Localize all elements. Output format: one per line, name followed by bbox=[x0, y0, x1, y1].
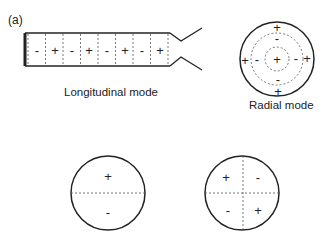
rod-sign: - bbox=[70, 43, 74, 58]
dipole-sign-bottom: - bbox=[106, 205, 110, 220]
rod-signs: - + - + - + - + bbox=[35, 43, 164, 58]
radial-sign-outer-left: + bbox=[241, 53, 249, 68]
radial-caption: Radial mode bbox=[249, 99, 314, 111]
horn-bottom bbox=[170, 57, 202, 70]
rod-sign: - bbox=[105, 43, 109, 58]
rod-sign: + bbox=[51, 43, 59, 58]
radial-sign-outer-right: + bbox=[303, 51, 311, 66]
radial-sign-middle-top: - bbox=[275, 31, 279, 46]
panel-label: (a) bbox=[8, 13, 23, 27]
radial-sign-middle-bottom: - bbox=[276, 72, 280, 87]
quadrupole-sign-bottom-right: + bbox=[254, 203, 262, 218]
longitudinal-rod: - + - + - + - + bbox=[25, 28, 202, 70]
radial-sign-middle-left: - bbox=[255, 52, 259, 67]
horn-top bbox=[170, 28, 202, 41]
rod-sign: + bbox=[121, 43, 129, 58]
vibration-modes-diagram: (a) - + - + - + - + Lo bbox=[0, 0, 323, 232]
rod-sign: - bbox=[140, 43, 144, 58]
radial-mode-disc: + + + + - - - - + bbox=[240, 20, 314, 99]
dipole-sign-top: + bbox=[104, 169, 112, 184]
dipole-mode-disc: + - bbox=[71, 156, 145, 230]
node-lines bbox=[28, 34, 168, 65]
quadrupole-sign-top-right: - bbox=[256, 170, 260, 185]
rod-sign: + bbox=[156, 43, 164, 58]
radial-sign-middle-right: - bbox=[294, 51, 298, 66]
quadrupole-mode-disc: + - - + bbox=[205, 156, 279, 232]
radial-sign-center: + bbox=[273, 52, 281, 67]
quadrupole-sign-bottom-left: - bbox=[226, 203, 230, 218]
quadrupole-sign-top-left: + bbox=[222, 170, 230, 185]
rod-sign: - bbox=[35, 43, 39, 58]
longitudinal-caption: Longitudinal mode bbox=[64, 86, 158, 98]
rod-sign: + bbox=[85, 43, 93, 58]
